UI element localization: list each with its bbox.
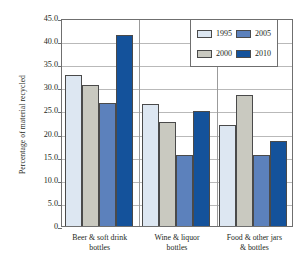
x-axis-category-label: Food & other jars& bottles [216, 233, 293, 252]
y-axis-tick-label: 40.0 [18, 38, 58, 46]
legend-swatch-1995 [197, 30, 212, 38]
legend-row: 19952005 [195, 23, 273, 43]
bar [82, 85, 99, 226]
bar [142, 104, 159, 226]
bar [253, 155, 270, 226]
bar-group [65, 20, 133, 226]
y-axis-tick-label: 10.0 [18, 177, 58, 185]
y-axis-tick-label: 45.0 [18, 15, 58, 23]
legend: 1995200520002010 [190, 19, 278, 67]
bar [99, 103, 116, 226]
legend-swatch-2010 [236, 50, 251, 58]
legend-label-2005: 2005 [253, 23, 273, 43]
bar-chart-figure: Percentage of material recycled 45.040.0… [0, 0, 306, 265]
legend-swatch-2000 [197, 50, 212, 58]
x-axis-category-label: Wine & liquorbottles [138, 233, 215, 252]
legend-label-2000: 2000 [214, 43, 234, 63]
legend-swatch-cell [234, 43, 253, 63]
category-label-line: bottles [138, 243, 215, 253]
y-axis-tick-label: 0 [18, 223, 58, 231]
y-axis-tick-mark [58, 136, 62, 137]
x-axis-category-label: Beer & soft drinkbottles [61, 233, 138, 252]
category-label-line: Beer & soft drink [61, 233, 138, 243]
y-axis-tick-label: 35.0 [18, 61, 58, 69]
y-axis-tick-mark [58, 205, 62, 206]
y-axis-tick-label: 5.0 [18, 200, 58, 208]
y-axis-tick-label: 25.0 [18, 107, 58, 115]
category-label-line: Food & other jars [216, 233, 293, 243]
legend-swatch-cell [195, 43, 214, 63]
y-axis-tick-label: 20.0 [18, 131, 58, 139]
category-label-line: Wine & liquor [138, 233, 215, 243]
bar [219, 125, 236, 226]
y-axis-tick-mark [58, 159, 62, 160]
y-axis-tick-mark [58, 182, 62, 183]
category-label-line: bottles [61, 243, 138, 253]
y-axis-tick-mark [58, 112, 62, 113]
legend-label-1995: 1995 [214, 23, 234, 43]
bar [116, 35, 133, 226]
bar [270, 141, 287, 226]
legend-label-2010: 2010 [253, 43, 273, 63]
bar [65, 75, 82, 226]
y-axis-tick-mark [58, 43, 62, 44]
legend-swatch-2005 [236, 30, 251, 38]
y-axis-tick-mark [58, 89, 62, 90]
y-axis-tick-label: 15.0 [18, 154, 58, 162]
legend-swatch-cell [234, 23, 253, 43]
y-axis-tick-label: 30.0 [18, 84, 58, 92]
bar [176, 155, 193, 226]
bar [236, 95, 253, 226]
y-axis-tick-mark [58, 228, 62, 229]
category-separator [139, 20, 140, 226]
legend-row: 20002010 [195, 43, 273, 63]
legend-table: 1995200520002010 [195, 23, 273, 63]
y-axis-tick-mark [58, 20, 62, 21]
category-label-line: & bottles [216, 243, 293, 253]
legend-swatch-cell [195, 23, 214, 43]
bar [159, 122, 176, 226]
y-axis-tick-mark [58, 66, 62, 67]
bar [193, 111, 210, 226]
